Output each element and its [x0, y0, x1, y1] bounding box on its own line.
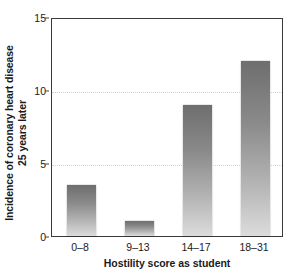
x-tick-label: 9–13	[126, 241, 149, 253]
bar	[241, 61, 270, 236]
y-tick-mark	[45, 18, 49, 19]
y-tick-label: 0	[24, 232, 46, 243]
y-tick-mark	[45, 237, 49, 238]
bars-group	[52, 19, 282, 236]
bar	[183, 105, 212, 236]
bar	[67, 185, 96, 236]
y-tick-label: 15	[24, 13, 46, 24]
x-tick-label: 0–8	[71, 241, 89, 253]
plot-area	[51, 18, 283, 237]
y-tick-label: 5	[24, 159, 46, 170]
y-tick-mark	[45, 91, 49, 92]
x-axis-ticks: 0–89–1314–1718–31	[51, 241, 283, 257]
x-tick-label: 14–17	[181, 241, 210, 253]
x-tick-label: 18–31	[239, 241, 268, 253]
y-tick-mark	[45, 164, 49, 165]
bar	[125, 221, 154, 236]
bar-chart-figure: Incidence of coronary heart disease 25 y…	[0, 0, 295, 273]
y-axis-title-line-1: Incidence of coronary heart disease	[3, 45, 16, 221]
x-axis-title: Hostility score as student	[51, 257, 283, 269]
y-axis-ticks: 051015	[22, 0, 46, 273]
y-tick-label: 10	[24, 86, 46, 97]
